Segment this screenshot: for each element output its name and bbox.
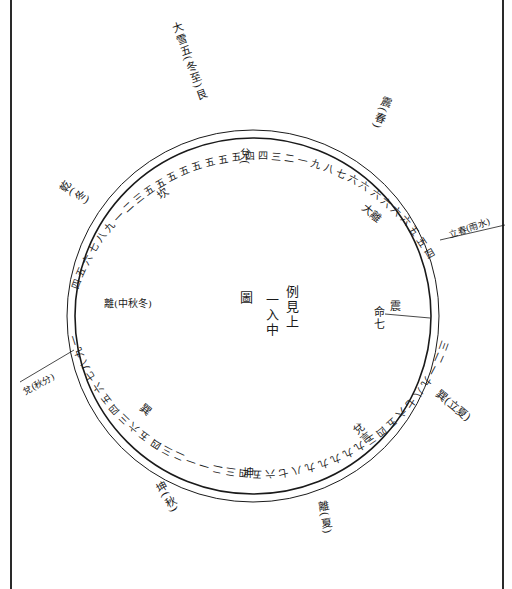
diagram-canvas: 四 五 六 七 八 九 一 二 三 五 五 五 五 五 五 五 五 四 四 三 … <box>0 0 512 589</box>
center-text-col3: 圖 <box>236 291 255 306</box>
inner-label-dui: 兌( <box>238 148 250 165</box>
inner-label-right-1: 震 <box>388 300 400 312</box>
inner-label-bottom: 坤 <box>243 468 254 480</box>
ring-graphic: 四 五 六 七 八 九 一 二 三 五 五 五 五 五 五 五 五 四 四 三 … <box>0 0 512 589</box>
center-text-col2: 一入中 <box>262 293 281 338</box>
ring-numerals-top: 四 五 六 七 八 九 一 二 三 五 五 五 五 五 五 五 五 四 四 三 … <box>69 150 436 291</box>
inner-label-right-2: 命七 <box>372 306 384 330</box>
ring-numerals-bottom: 三 二 一 九 八 七 六 五 四 三 九 九 九 九 九 八 七 六 五 四 … <box>0 0 451 480</box>
center-text-col1: 例見上 <box>282 285 301 330</box>
inner-label-left: 離(中秋冬) <box>104 298 152 310</box>
arrow-line-right <box>385 314 430 318</box>
